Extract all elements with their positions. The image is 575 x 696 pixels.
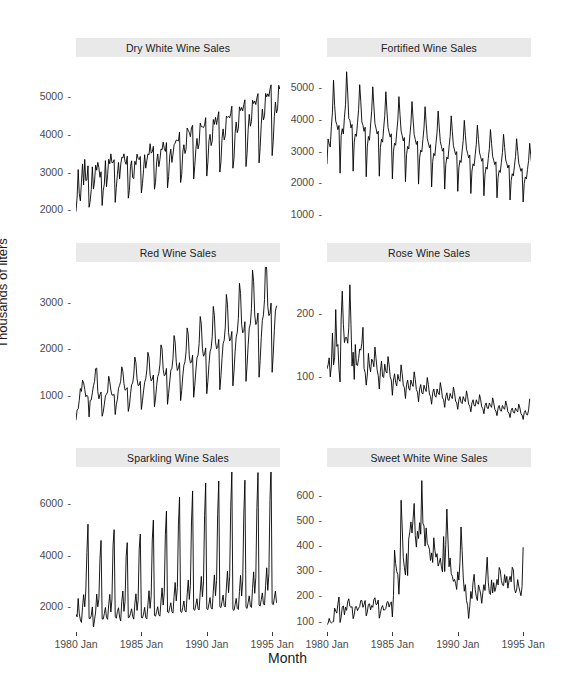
plot-area-drywhite [76,62,280,217]
y-tick-fortified-1000: 1000- [281,208,322,220]
x-tick-mark-sparkling-1985 [141,632,142,636]
y-tick-rose-200: 200- [281,307,322,319]
plot-area-fortified [327,62,531,217]
y-tick-sweetwhite-300: 300- [281,564,322,576]
series-line-drywhite [76,62,280,217]
x-tick-mark-sweetwhite-1980 [327,632,328,636]
series-line-sweetwhite [327,472,531,627]
y-tick-drywhite-3000: 3000- [30,166,71,178]
x-tick-label-sparkling-1980: 1980 Jan [54,638,97,650]
y-tick-fortified-2000: 2000- [281,176,322,188]
x-tick-mark-sparkling-1990 [207,632,208,636]
y-tick-drywhite-5000: 5000- [30,90,71,102]
panel-title-rose: Rose Wine Sales [327,243,531,262]
wine-sales-facet-figure: Thousands of liters Month Dry White Wine… [0,0,575,696]
x-tick-label-sparkling-1995: 1995 Jan [251,638,294,650]
y-tick-red-1000: 1000- [30,389,71,401]
x-tick-label-sweetwhite-1980: 1980 Jan [305,638,348,650]
y-tick-red-2000: 2000- [30,342,71,354]
x-axis-label: Month [0,650,575,666]
x-tick-label-sparkling-1985: 1985 Jan [120,638,163,650]
series-line-sparkling [76,472,280,627]
y-tick-sweetwhite-500: 500- [281,514,322,526]
y-tick-fortified-5000: 5000- [281,81,322,93]
x-tick-mark-sweetwhite-1995 [523,632,524,636]
panel-title-sparkling: Sparkling Wine Sales [76,448,280,467]
x-tick-label-sweetwhite-1990: 1990 Jan [436,638,479,650]
y-tick-sparkling-2000: 2000- [30,600,71,612]
y-tick-sweetwhite-100: 100- [281,615,322,627]
y-tick-fortified-4000: 4000- [281,113,322,125]
plot-area-red [76,267,280,422]
series-line-fortified [327,62,531,217]
panel-title-drywhite: Dry White Wine Sales [76,38,280,57]
panel-title-red: Red Wine Sales [76,243,280,262]
x-tick-label-sparkling-1990: 1990 Jan [185,638,228,650]
panel-title-fortified: Fortified Wine Sales [327,38,531,57]
series-line-red [76,267,280,422]
y-tick-sweetwhite-200: 200- [281,589,322,601]
y-tick-sweetwhite-600: 600- [281,489,322,501]
x-tick-label-sweetwhite-1995: 1995 Jan [502,638,545,650]
y-tick-drywhite-2000: 2000- [30,203,71,215]
y-tick-sweetwhite-400: 400- [281,539,322,551]
y-tick-drywhite-4000: 4000- [30,128,71,140]
plot-area-rose [327,267,531,422]
y-tick-fortified-3000: 3000- [281,145,322,157]
x-tick-mark-sparkling-1995 [272,632,273,636]
y-tick-red-3000: 3000- [30,296,71,308]
panel-title-sweetwhite: Sweet White Wine Sales [327,448,531,467]
y-axis-label: Thousands of liters [0,238,10,348]
x-tick-label-sweetwhite-1985: 1985 Jan [371,638,414,650]
x-tick-mark-sweetwhite-1990 [458,632,459,636]
plot-area-sparkling [76,472,280,627]
series-line-rose [327,267,531,422]
plot-area-sweetwhite [327,472,531,627]
y-tick-sparkling-6000: 6000- [30,497,71,509]
x-tick-mark-sparkling-1980 [76,632,77,636]
y-tick-rose-100: 100- [281,370,322,382]
y-tick-sparkling-4000: 4000- [30,549,71,561]
x-tick-mark-sweetwhite-1985 [392,632,393,636]
